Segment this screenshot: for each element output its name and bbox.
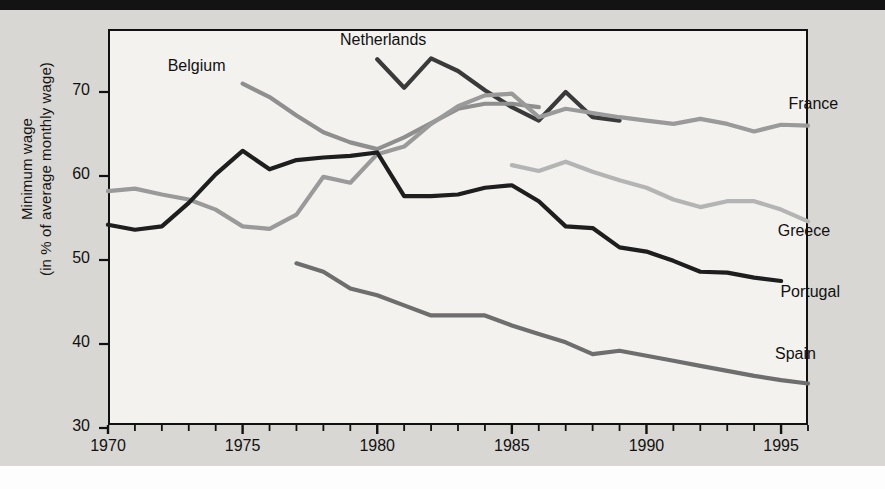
plot-area [108,29,808,425]
x-tick-label-1985: 1985 [482,437,542,455]
series-label-portugal: Portugal [780,283,840,301]
y-axis-title: Minimum wage (in % of average monthly wa… [17,29,55,309]
y-axis-title-line1: Minimum wage [17,29,36,309]
page-top-dark-edge [0,0,885,10]
x-tick-label-1990: 1990 [616,437,676,455]
series-label-netherlands: Netherlands [340,31,426,49]
x-tick-label-1975: 1975 [213,437,273,455]
x-tick-label-1980: 1980 [347,437,407,455]
y-tick-label-60: 60 [56,165,90,183]
y-tick-label-40: 40 [56,333,90,351]
series-label-spain: Spain [775,345,816,363]
x-tick-label-1970: 1970 [78,437,138,455]
series-label-france: France [788,95,838,113]
scanned-page: Minimum wage (in % of average monthly wa… [0,0,885,489]
y-tick-label-30: 30 [56,417,90,435]
series-label-greece: Greece [778,222,830,240]
x-tick-label-1995: 1995 [751,437,811,455]
y-tick-label-50: 50 [56,249,90,267]
page-bottom-white-edge [0,466,885,489]
series-label-belgium: Belgium [168,57,226,75]
y-axis-title-line2: (in % of average monthly wage) [36,29,55,309]
y-tick-label-70: 70 [56,81,90,99]
